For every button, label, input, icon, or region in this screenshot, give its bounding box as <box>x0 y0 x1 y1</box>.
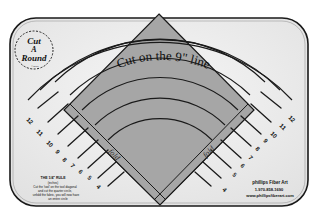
ruler-image: Cut on the 9" line fold fold 12 11 <box>0 0 319 223</box>
maker-website: www.phillipsfiberart.com <box>245 193 294 198</box>
maker-phone: 1-970-858-1690 <box>255 187 284 192</box>
maker-name: phillips Fiber Art <box>252 180 288 185</box>
logo-copyright: ©2016 <box>31 65 39 68</box>
logo-line3: Round <box>20 53 47 63</box>
instructions-line: an entire circle <box>48 197 68 201</box>
instructions-title: THE 1/4" RULE <box>41 176 67 180</box>
